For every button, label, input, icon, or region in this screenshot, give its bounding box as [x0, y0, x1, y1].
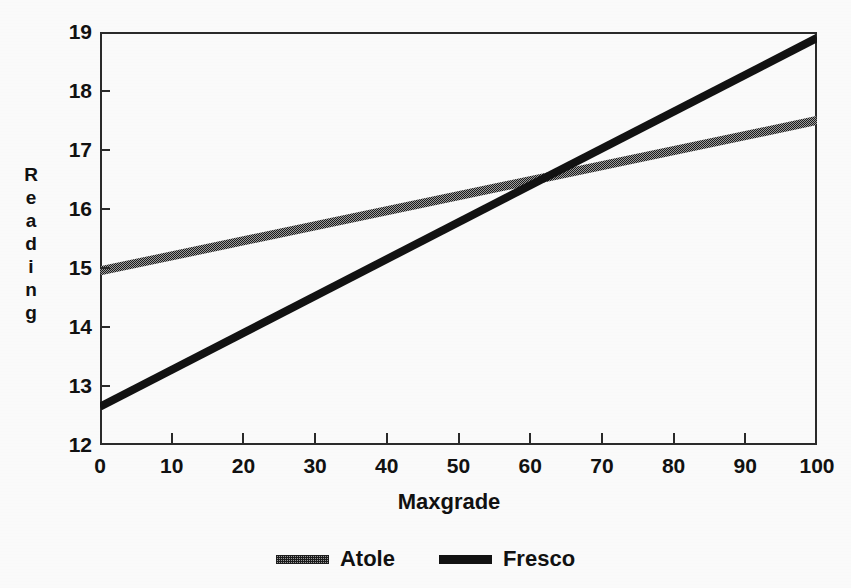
y-axis-title-letter: i [18, 255, 44, 278]
y-axis-title: Reading [18, 163, 44, 324]
x-tick-label: 80 [644, 455, 704, 476]
x-tick-mark [458, 433, 460, 445]
x-tick-mark [529, 433, 531, 445]
x-tick-label: 0 [70, 455, 130, 476]
y-tick-mark [100, 267, 110, 269]
x-tick-mark [744, 433, 746, 445]
x-tick-mark [314, 433, 316, 445]
legend-swatch-fresco [439, 555, 492, 564]
chart-figure: 1213141516171819 Reading 010203040506070… [0, 0, 851, 588]
y-axis-title-letter: e [18, 186, 44, 209]
x-tick-label: 10 [142, 455, 202, 476]
y-axis-title-letter: g [18, 301, 44, 324]
x-tick-mark [386, 433, 388, 445]
y-tick-label: 14 [50, 316, 92, 337]
y-tick-label: 13 [50, 375, 92, 396]
x-tick-label: 70 [572, 455, 632, 476]
series-line-atole [100, 121, 817, 271]
x-axis-title: Maxgrade [0, 489, 851, 515]
x-tick-label: 20 [213, 455, 273, 476]
legend-swatch-atole [276, 555, 329, 564]
chart-legend: Atole Fresco [0, 548, 851, 570]
y-tick-mark [100, 90, 110, 92]
x-tick-label: 100 [787, 455, 847, 476]
legend-label-fresco: Fresco [503, 548, 575, 570]
data-lines-layer [100, 32, 817, 445]
y-tick-label: 18 [50, 80, 92, 101]
x-tick-label: 40 [357, 455, 417, 476]
y-axis-title-letter: R [18, 163, 44, 186]
x-tick-mark [601, 433, 603, 445]
y-axis-title-letter: a [18, 209, 44, 232]
y-tick-label: 19 [50, 21, 92, 42]
x-tick-mark [673, 433, 675, 445]
y-tick-mark [100, 208, 110, 210]
y-tick-mark [100, 326, 110, 328]
y-tick-label: 16 [50, 198, 92, 219]
y-tick-mark [100, 385, 110, 387]
series-line-fresco [100, 38, 817, 407]
x-tick-label: 30 [285, 455, 345, 476]
x-tick-mark [242, 433, 244, 445]
x-tick-label: 90 [715, 455, 775, 476]
legend-entry-fresco[interactable]: Fresco [439, 548, 575, 570]
x-tick-mark [171, 433, 173, 445]
legend-label-atole: Atole [340, 548, 395, 570]
y-tick-label: 17 [50, 139, 92, 160]
y-axis-title-letter: n [18, 278, 44, 301]
y-tick-label: 15 [50, 257, 92, 278]
y-axis-title-letter: d [18, 232, 44, 255]
y-tick-mark [100, 149, 110, 151]
x-tick-label: 60 [500, 455, 560, 476]
y-tick-label: 12 [50, 434, 92, 455]
x-tick-label: 50 [429, 455, 489, 476]
legend-entry-atole[interactable]: Atole [276, 548, 395, 570]
